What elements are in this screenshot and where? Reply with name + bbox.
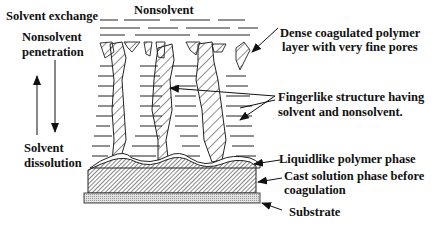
fingerlike-pointer-2 xyxy=(240,96,275,120)
solvent-dissolution-label-1: Solvent xyxy=(24,141,64,156)
dense-layer-pointer xyxy=(252,28,278,52)
nonsolvent-penetration-label-2: penetration xyxy=(22,45,84,60)
fingerlike-pointer-1 xyxy=(170,88,275,96)
nonsolvent-dashes xyxy=(100,20,258,35)
substrate xyxy=(84,193,260,203)
fingerlike-pointer-3 xyxy=(240,100,275,108)
fingerlike-label-2: solvent and nonsolvent. xyxy=(278,105,403,120)
fingerlike-label-1: Fingerlike structure having xyxy=(278,90,424,105)
liquidlike-label: Liquidlike polymer phase xyxy=(279,152,416,167)
cast-solution-label-1: Cast solution phase before xyxy=(284,169,424,184)
nonsolvent-label: Nonsolvent xyxy=(134,3,194,18)
substrate-label: Substrate xyxy=(289,205,340,220)
solvent-exchange-label: Solvent exchange xyxy=(6,9,98,24)
cast-solution-label-2: coagulation xyxy=(284,183,346,198)
nonsolvent-penetration-label-1: Nonsolvent xyxy=(22,30,82,45)
solvent-dissolution-label-2: dissolution xyxy=(24,156,82,171)
dense-layer-label-1: Dense coagulated polymer xyxy=(280,26,420,41)
cast-solution-pointer xyxy=(258,178,282,182)
fingerlike-structures xyxy=(110,42,226,162)
dense-layer-label-2: layer with very fine pores xyxy=(282,40,418,55)
substrate-pointer xyxy=(262,203,282,210)
cast-solution-layer xyxy=(88,157,256,193)
